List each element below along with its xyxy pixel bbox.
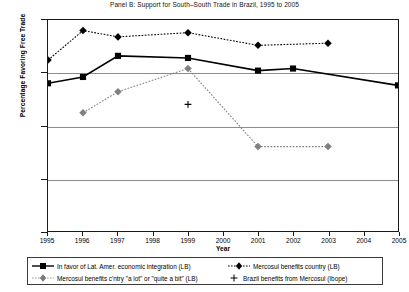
y-axis-label: Percentage Favoring Free Trade bbox=[19, 6, 26, 126]
series-2 bbox=[79, 65, 332, 151]
legend-marker-plus bbox=[227, 273, 241, 283]
x-tick-mark bbox=[293, 232, 294, 236]
data-point bbox=[185, 101, 192, 108]
data-point bbox=[184, 29, 192, 37]
data-point bbox=[115, 53, 121, 59]
legend-marker-square-black bbox=[31, 261, 55, 271]
x-tick-label: 2002 bbox=[273, 237, 313, 245]
legend-marker-diamond-gray bbox=[31, 273, 55, 283]
x-tick-label: 2000 bbox=[203, 237, 243, 245]
x-tick-mark bbox=[117, 232, 118, 236]
data-point bbox=[80, 74, 86, 80]
x-tick-label: 2005 bbox=[379, 237, 409, 245]
series-line bbox=[83, 69, 328, 147]
chart-container: Panel B: Support for South–South Trade i… bbox=[0, 0, 409, 292]
x-tick-mark bbox=[364, 232, 365, 236]
x-tick-label: 1996 bbox=[62, 237, 102, 245]
x-tick-label: 1995 bbox=[27, 237, 67, 245]
legend-row-2: Mercosul benefits c'ntry "a lot" or "qui… bbox=[31, 272, 379, 284]
x-tick-mark bbox=[188, 232, 189, 236]
x-tick-mark bbox=[153, 232, 154, 236]
chart-legend: In favor of Lat. Amer. economic integrat… bbox=[27, 257, 383, 285]
data-point bbox=[254, 143, 262, 151]
data-point bbox=[324, 143, 332, 151]
legend-item-1: Mercosul benefits country (LB) bbox=[227, 261, 340, 271]
data-point bbox=[255, 68, 261, 74]
x-tick-label: 1998 bbox=[133, 237, 173, 245]
legend-label-3: Brazil benefits from Mercosul (Ibope) bbox=[243, 275, 347, 282]
x-tick-mark bbox=[329, 232, 330, 236]
data-point bbox=[290, 65, 296, 71]
x-tick-mark bbox=[82, 232, 83, 236]
data-point bbox=[324, 39, 332, 47]
x-tick-mark bbox=[258, 232, 259, 236]
legend-item-0: In favor of Lat. Amer. economic integrat… bbox=[31, 261, 227, 271]
x-tick-label: 2004 bbox=[344, 237, 384, 245]
legend-label-2: Mercosul benefits c'ntry "a lot" or "qui… bbox=[57, 275, 198, 282]
x-tick-mark bbox=[399, 232, 400, 236]
data-point bbox=[79, 109, 87, 117]
data-point bbox=[185, 55, 191, 61]
x-tick-label: 1997 bbox=[97, 237, 137, 245]
series-line bbox=[48, 56, 398, 86]
x-tick-label: 1999 bbox=[168, 237, 208, 245]
data-point bbox=[114, 33, 122, 41]
x-tick-label: 2001 bbox=[238, 237, 278, 245]
data-point bbox=[254, 42, 262, 50]
x-tick-mark bbox=[223, 232, 224, 236]
legend-marker-diamond-black bbox=[227, 261, 251, 271]
plot-area bbox=[47, 19, 399, 232]
series-3 bbox=[185, 101, 192, 108]
chart-title: Panel B: Support for South–South Trade i… bbox=[0, 1, 409, 8]
x-tick-mark bbox=[47, 232, 48, 236]
data-point bbox=[48, 80, 51, 86]
data-series-layer bbox=[48, 20, 398, 231]
legend-label-0: In favor of Lat. Amer. economic integrat… bbox=[57, 263, 191, 270]
data-point bbox=[395, 82, 398, 88]
data-point bbox=[114, 88, 122, 96]
series-0 bbox=[48, 53, 398, 89]
x-axis-label: Year bbox=[47, 245, 399, 252]
x-tick-label: 2003 bbox=[309, 237, 349, 245]
legend-row-1: In favor of Lat. Amer. economic integrat… bbox=[31, 260, 379, 272]
legend-label-1: Mercosul benefits country (LB) bbox=[253, 263, 340, 270]
legend-item-3: Brazil benefits from Mercosul (Ibope) bbox=[227, 273, 347, 283]
legend-item-2: Mercosul benefits c'ntry "a lot" or "qui… bbox=[31, 273, 227, 283]
